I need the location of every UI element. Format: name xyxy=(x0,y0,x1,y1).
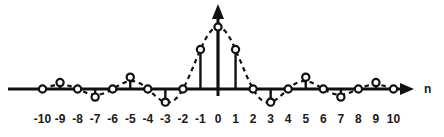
sample-marker xyxy=(214,23,221,30)
sample-marker xyxy=(355,85,362,92)
x-tick-label: -10 xyxy=(34,113,51,125)
x-tick-label: -3 xyxy=(160,113,171,125)
sample-marker xyxy=(144,85,151,92)
sample-marker xyxy=(74,85,81,92)
x-tick-label: 6 xyxy=(320,113,327,125)
x-tick-label: -1 xyxy=(195,113,206,125)
x-tick-label: -7 xyxy=(90,113,101,125)
sample-marker xyxy=(337,94,344,101)
sample-marker xyxy=(39,85,46,92)
sample-marker xyxy=(372,79,379,86)
x-tick-label: -2 xyxy=(178,113,189,125)
sample-marker xyxy=(162,99,169,106)
x-tick-label: 3 xyxy=(267,113,274,125)
x-axis-label: n xyxy=(424,83,431,95)
x-tick-label: -4 xyxy=(142,113,153,125)
x-tick-label: 0 xyxy=(215,113,222,125)
x-tick-label: 2 xyxy=(250,113,257,125)
x-axis-arrowhead xyxy=(400,83,414,95)
sample-marker xyxy=(302,74,309,81)
x-tick-label: 10 xyxy=(387,113,400,125)
x-tick-label: 1 xyxy=(232,113,239,125)
sample-marker xyxy=(285,85,292,92)
sample-marker xyxy=(92,94,99,101)
sample-marker xyxy=(197,46,204,53)
x-tick-label: -6 xyxy=(107,113,118,125)
sample-marker xyxy=(109,85,116,92)
x-tick-label: 4 xyxy=(285,113,292,125)
sample-marker xyxy=(127,74,134,81)
y-axis-arrowhead xyxy=(212,4,224,19)
sample-marker xyxy=(250,85,257,92)
sample-marker xyxy=(232,46,239,53)
x-tick-label: 9 xyxy=(373,113,380,125)
x-tick-label: 7 xyxy=(338,113,345,125)
x-tick-label: -8 xyxy=(72,113,83,125)
sinc-stem-plot-figure: -10-9-8-7-6-5-4-3-2-1012345678910 n xyxy=(0,0,444,137)
sample-marker xyxy=(390,85,397,92)
x-tick-label: -5 xyxy=(125,113,136,125)
x-tick-label: -9 xyxy=(55,113,66,125)
sample-marker xyxy=(320,85,327,92)
sample-marker xyxy=(267,99,274,106)
sample-marker xyxy=(56,79,63,86)
x-tick-label: 8 xyxy=(355,113,362,125)
x-tick-label: 5 xyxy=(302,113,309,125)
sample-marker xyxy=(179,85,186,92)
